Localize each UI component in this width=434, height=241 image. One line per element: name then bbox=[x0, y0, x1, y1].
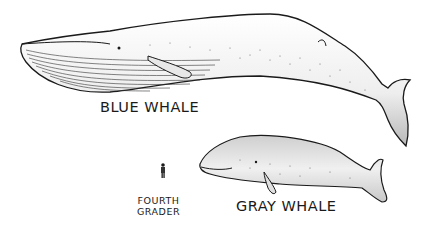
gray-whale-label: GRAY WHALE bbox=[236, 198, 336, 214]
fourth-grader-label-line1: FOURTH bbox=[137, 195, 180, 206]
child-figure bbox=[161, 163, 165, 178]
whale-comparison-illustration bbox=[0, 0, 434, 241]
fourth-grader-label: FOURTH GRADER bbox=[137, 195, 180, 217]
gray-whale-drawing bbox=[200, 135, 387, 202]
blue-whale-drawing bbox=[21, 14, 410, 146]
fourth-grader-label-line2: GRADER bbox=[137, 206, 180, 217]
blue-whale-label: BLUE WHALE bbox=[100, 99, 199, 115]
